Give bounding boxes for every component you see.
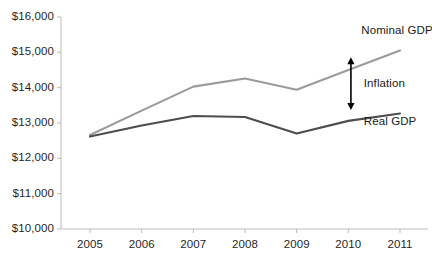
- annotation-real-gdp: Real GDP: [364, 115, 417, 127]
- x-axis-tick-label: 2011: [377, 238, 423, 250]
- annotation-inflation: Inflation: [364, 77, 405, 89]
- y-axis-tick-label: $14,000: [0, 81, 54, 93]
- y-axis-tick-label: $15,000: [0, 45, 54, 57]
- arrow-head-up: [347, 57, 354, 64]
- x-axis-tick-label: 2010: [325, 238, 371, 250]
- chart-plot-area: [0, 0, 432, 268]
- y-axis-tick-label: $12,000: [0, 151, 54, 163]
- arrow-head-down: [347, 103, 354, 110]
- series-line-real-gdp: [90, 113, 400, 136]
- y-axis-tick-label: $13,000: [0, 116, 54, 128]
- x-axis-tick-label: 2005: [67, 238, 113, 250]
- inflation-double-arrow: [347, 57, 354, 110]
- gdp-line-chart: $16,000$15,000$14,000$13,000$12,000$11,0…: [0, 0, 432, 268]
- y-axis-tick-label: $16,000: [0, 10, 54, 22]
- x-axis-tick-label: 2008: [222, 238, 268, 250]
- x-axis-tick-label: 2006: [119, 238, 165, 250]
- x-axis-tick-label: 2007: [170, 238, 216, 250]
- y-axis-tick-label: $10,000: [0, 222, 54, 234]
- annotation-nominal-gdp: Nominal GDP: [361, 24, 432, 36]
- y-axis-tick-label: $11,000: [0, 187, 54, 199]
- x-axis-tick-label: 2009: [274, 238, 320, 250]
